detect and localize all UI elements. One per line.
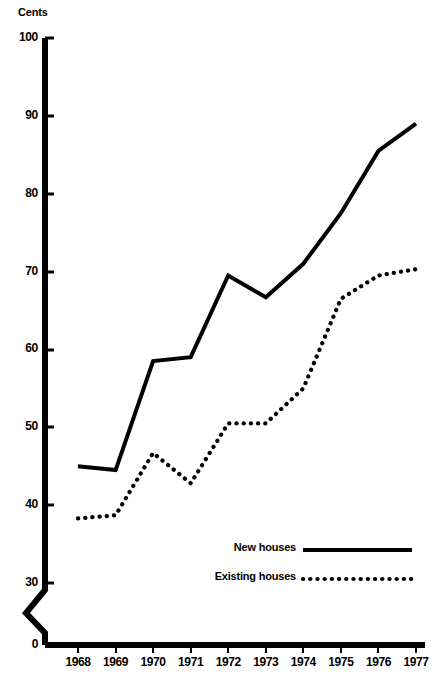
y-axis-tick-label-40: 40 xyxy=(8,497,38,511)
y-axis-tick-label-30: 30 xyxy=(8,575,38,589)
x-axis-tick-label-1970: 1970 xyxy=(132,655,174,669)
chart-axes xyxy=(26,38,425,653)
y-axis-tick-label-100: 100 xyxy=(8,30,38,44)
legend-marks xyxy=(303,550,412,579)
y-axis-tick-label-60: 60 xyxy=(8,341,38,355)
legend-label-new-houses: New houses xyxy=(234,541,296,553)
y-axis-break-zigzag xyxy=(26,583,45,645)
x-axis-tick-label-1972: 1972 xyxy=(207,655,249,669)
x-axis-tick-label-1969: 1969 xyxy=(95,655,137,669)
y-axis-tick-label-50: 50 xyxy=(8,419,38,433)
x-axis-tick-label-1976: 1976 xyxy=(357,655,399,669)
x-axis-tick-label-1973: 1973 xyxy=(245,655,287,669)
x-axis-tick-label-1977: 1977 xyxy=(395,655,437,669)
x-axis-tick-label-1975: 1975 xyxy=(320,655,362,669)
y-axis-tick-label-0: 0 xyxy=(8,637,38,651)
x-axis-tick-label-1968: 1968 xyxy=(57,655,99,669)
legend-label-existing-houses: Existing houses xyxy=(215,570,296,582)
line-series-existing-houses xyxy=(78,269,416,518)
x-axis-tick-label-1971: 1971 xyxy=(170,655,212,669)
y-axis-tick-label-90: 90 xyxy=(8,108,38,122)
y-axis-tick-label-80: 80 xyxy=(8,186,38,200)
y-axis-tick-label-70: 70 xyxy=(8,264,38,278)
line-series-new-houses xyxy=(78,124,416,471)
x-axis-tick-label-1974: 1974 xyxy=(282,655,324,669)
chart-container: Cents xyxy=(0,0,439,683)
